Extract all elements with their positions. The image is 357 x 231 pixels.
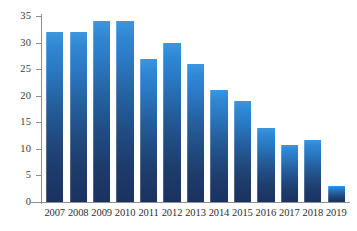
y-axis-tick-label: 0 xyxy=(1,194,31,210)
y-axis-line xyxy=(41,14,42,204)
bar-group[interactable] xyxy=(70,16,87,202)
bar-2007[interactable] xyxy=(46,32,63,202)
y-axis-tick-label: 10 xyxy=(1,141,31,157)
bar-2018[interactable] xyxy=(304,140,321,202)
bar-2008[interactable] xyxy=(70,32,87,202)
bar-2014[interactable] xyxy=(210,90,227,202)
plot-area xyxy=(43,16,348,202)
bar-group[interactable] xyxy=(140,16,157,202)
bar-group[interactable] xyxy=(234,16,251,202)
bar-2017[interactable] xyxy=(281,145,298,202)
x-axis-line xyxy=(31,202,350,203)
bar-2012[interactable] xyxy=(163,43,180,202)
y-axis-tick-label: 5 xyxy=(1,167,31,183)
bar-2015[interactable] xyxy=(234,101,251,202)
bar-2019[interactable] xyxy=(328,186,345,202)
y-axis-tick-label: 30 xyxy=(1,35,31,51)
bar-group[interactable] xyxy=(93,16,110,202)
bar-chart-figure: 05101520253035 2007200820092010201120122… xyxy=(0,0,357,231)
bar-group[interactable] xyxy=(46,16,63,202)
bar-2016[interactable] xyxy=(257,128,274,202)
bar-group[interactable] xyxy=(304,16,321,202)
bar-2013[interactable] xyxy=(187,64,204,202)
bar-group[interactable] xyxy=(116,16,133,202)
bar-group[interactable] xyxy=(187,16,204,202)
bar-2010[interactable] xyxy=(116,21,133,202)
bar-group[interactable] xyxy=(328,16,345,202)
y-axis-tick-label: 25 xyxy=(1,61,31,77)
bar-2009[interactable] xyxy=(93,21,110,202)
bar-2011[interactable] xyxy=(140,59,157,202)
bar-group[interactable] xyxy=(281,16,298,202)
bar-group[interactable] xyxy=(257,16,274,202)
bar-group[interactable] xyxy=(210,16,227,202)
bar-group[interactable] xyxy=(163,16,180,202)
y-axis-tick-label: 15 xyxy=(1,114,31,130)
x-axis-label-2019: 2019 xyxy=(321,206,351,220)
y-axis-tick-label: 35 xyxy=(1,8,31,24)
y-axis-tick-label: 20 xyxy=(1,88,31,104)
